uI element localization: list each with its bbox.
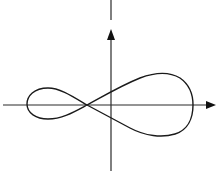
coordinate-plot — [0, 0, 216, 173]
y-axis-arrow-icon — [107, 29, 115, 40]
x-axis-arrow-icon — [206, 101, 216, 109]
diagram-canvas — [0, 0, 216, 173]
